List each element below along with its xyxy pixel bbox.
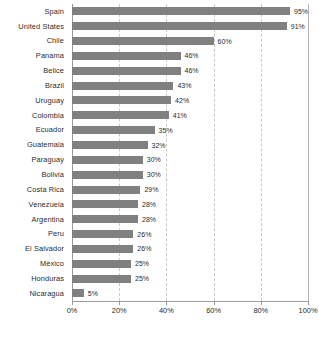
category-label: Honduras <box>0 271 68 286</box>
x-axis-tick <box>166 301 167 305</box>
gridline <box>308 4 309 301</box>
bar <box>72 289 84 297</box>
category-label: Bolivia <box>0 167 68 182</box>
bar <box>72 37 214 45</box>
bar-row: 29% <box>72 182 308 197</box>
bar-value-label: 91% <box>291 23 305 30</box>
bar-value-label: 28% <box>142 216 156 223</box>
bar <box>72 96 171 104</box>
bar-row: 35% <box>72 123 308 138</box>
bar-row: 28% <box>72 197 308 212</box>
bar-row: 43% <box>72 78 308 93</box>
x-axis-labels: 0%20%40%60%80%100% <box>72 307 308 321</box>
bar-value-label: 25% <box>135 275 149 282</box>
category-label: Costa Rica <box>0 182 68 197</box>
category-label: México <box>0 256 68 271</box>
x-axis-tick-label: 20% <box>112 307 127 314</box>
bar-value-label: 29% <box>144 186 158 193</box>
bar <box>72 22 287 30</box>
bar-row: 25% <box>72 256 308 271</box>
bar-value-label: 32% <box>152 142 166 149</box>
bar <box>72 7 290 15</box>
x-axis-tick-label: 40% <box>159 307 174 314</box>
bar <box>72 215 138 223</box>
bar-value-label: 95% <box>294 8 308 15</box>
bar-value-label: 60% <box>218 38 232 45</box>
bar-value-label: 30% <box>147 156 161 163</box>
category-label: Spain <box>0 4 68 19</box>
bar <box>72 82 173 90</box>
bars-layer: 95%91%60%46%46%43%42%41%35%32%30%30%29%2… <box>72 4 308 301</box>
plot-area: 95%91%60%46%46%43%42%41%35%32%30%30%29%2… <box>72 4 308 301</box>
bar-value-label: 46% <box>185 67 199 74</box>
category-label: United States <box>0 19 68 34</box>
bar-value-label: 5% <box>88 290 98 297</box>
x-axis-tick <box>261 301 262 305</box>
x-axis-tick-label: 60% <box>206 307 221 314</box>
bar-row: 41% <box>72 108 308 123</box>
bar-value-label: 28% <box>142 201 156 208</box>
x-axis-tick-label: 80% <box>253 307 268 314</box>
x-axis-tick <box>72 301 73 305</box>
bar-row: 26% <box>72 242 308 257</box>
x-axis-ticks <box>72 301 308 306</box>
bar-row: 28% <box>72 212 308 227</box>
bar-value-label: 42% <box>175 97 189 104</box>
category-label: Venezuela <box>0 197 68 212</box>
bar-row: 30% <box>72 152 308 167</box>
bar <box>72 52 181 60</box>
bar <box>72 200 138 208</box>
bar-value-label: 46% <box>185 52 199 59</box>
bar-value-label: 30% <box>147 171 161 178</box>
category-label: El Salvador <box>0 242 68 257</box>
bar-row: 32% <box>72 138 308 153</box>
bar <box>72 156 143 164</box>
bar <box>72 260 131 268</box>
bar-row: 5% <box>72 286 308 301</box>
bar <box>72 171 143 179</box>
category-label: Chile <box>0 34 68 49</box>
x-axis-tick-label: 100% <box>299 307 318 314</box>
bar-value-label: 43% <box>177 82 191 89</box>
category-label: Belice <box>0 63 68 78</box>
bar-row: 42% <box>72 93 308 108</box>
bar <box>72 186 140 194</box>
category-label: Argentina <box>0 212 68 227</box>
category-label: Uruguay <box>0 93 68 108</box>
x-axis-tick <box>214 301 215 305</box>
x-axis-tick <box>308 301 309 305</box>
category-label: Peru <box>0 227 68 242</box>
bar <box>72 245 133 253</box>
bar-row: 60% <box>72 34 308 49</box>
bar <box>72 141 148 149</box>
bar-row: 91% <box>72 19 308 34</box>
category-label: Paraguay <box>0 152 68 167</box>
bar-row: 26% <box>72 227 308 242</box>
category-axis: SpainUnited StatesChilePanamaBeliceBrazi… <box>0 4 68 301</box>
category-label: Guatemala <box>0 138 68 153</box>
bar-row: 46% <box>72 49 308 64</box>
bar-chart: SpainUnited StatesChilePanamaBeliceBrazi… <box>0 0 319 344</box>
bar <box>72 126 155 134</box>
category-label: Colombia <box>0 108 68 123</box>
category-label: Brazil <box>0 78 68 93</box>
category-label: Nicaragua <box>0 286 68 301</box>
x-axis-tick <box>119 301 120 305</box>
bar-value-label: 26% <box>137 245 151 252</box>
bar-row: 95% <box>72 4 308 19</box>
bar-value-label: 26% <box>137 231 151 238</box>
category-label: Ecuador <box>0 123 68 138</box>
bar <box>72 111 169 119</box>
bar <box>72 230 133 238</box>
bar-value-label: 35% <box>159 127 173 134</box>
bar-row: 25% <box>72 271 308 286</box>
bar-value-label: 41% <box>173 112 187 119</box>
bar <box>72 67 181 75</box>
bar <box>72 275 131 283</box>
bar-row: 30% <box>72 167 308 182</box>
bar-value-label: 25% <box>135 260 149 267</box>
bar-row: 46% <box>72 63 308 78</box>
category-label: Panama <box>0 49 68 64</box>
x-axis-tick-label: 0% <box>67 307 78 314</box>
